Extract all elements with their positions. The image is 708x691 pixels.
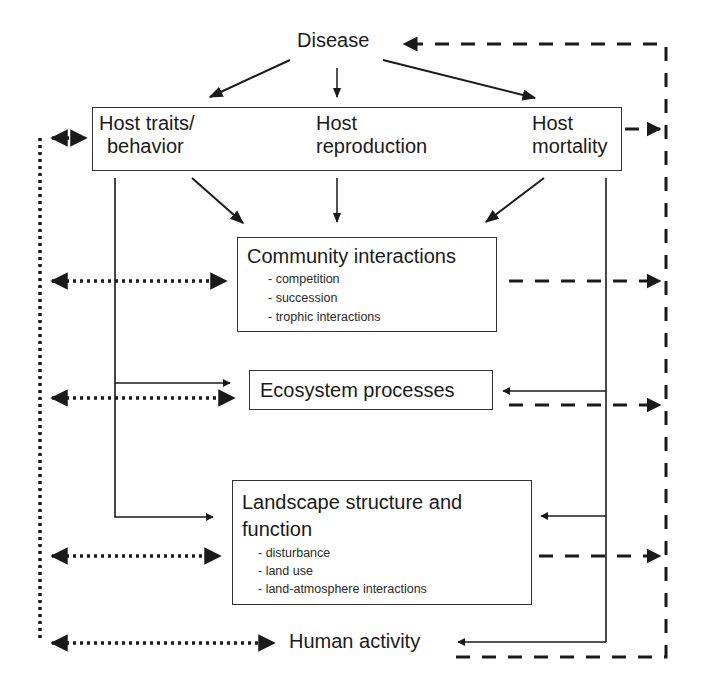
host-traits-line1: Host traits/	[99, 112, 195, 135]
arrow-disease-to-traits	[210, 60, 290, 97]
host-reproduction-node: Host reproduction	[316, 112, 427, 158]
landscape-item: - land-atmosphere interactions	[258, 580, 427, 598]
community-items: - competition - succession - trophic int…	[268, 270, 381, 326]
landscape-box: Landscape structure and function - distu…	[232, 480, 532, 605]
host-effects-box: Host traits/ behavior Host reproduction …	[92, 107, 622, 171]
disease-node: Disease	[297, 29, 369, 52]
landscape-item: - disturbance	[258, 544, 427, 562]
community-interactions-box: Community interactions - competition - s…	[237, 237, 497, 332]
landscape-item: - land use	[258, 562, 427, 580]
host-to-community-arrows	[192, 178, 544, 223]
landscape-title-line1: Landscape structure and	[242, 489, 462, 516]
community-item: - succession	[268, 289, 381, 308]
host-reproduction-line2: reproduction	[316, 135, 427, 158]
community-item: - competition	[268, 270, 381, 289]
ecosystem-title: Ecosystem processes	[260, 379, 455, 402]
arrow-traits-to-community	[192, 178, 243, 223]
host-reproduction-line1: Host	[316, 112, 427, 135]
landscape-title: Landscape structure and function	[242, 489, 462, 543]
traits-trunk	[115, 178, 230, 517]
host-mortality-node: Host mortality	[532, 112, 608, 158]
landscape-items: - disturbance - land use - land-atmosphe…	[258, 544, 427, 598]
arrow-mortality-to-community	[486, 178, 544, 222]
human-activity-node: Human activity	[289, 630, 420, 653]
arrow-disease-to-mortality	[383, 60, 535, 98]
disease-to-host-arrows	[210, 60, 535, 98]
community-item: - trophic interactions	[268, 308, 381, 327]
ecosystem-processes-box: Ecosystem processes	[249, 370, 493, 410]
host-traits-line2: behavior	[99, 135, 195, 158]
landscape-title-line2: function	[242, 516, 462, 543]
community-title: Community interactions	[247, 245, 456, 268]
host-mortality-line2: mortality	[532, 135, 608, 158]
host-mortality-line1: Host	[532, 112, 608, 135]
host-traits-node: Host traits/ behavior	[99, 112, 195, 158]
